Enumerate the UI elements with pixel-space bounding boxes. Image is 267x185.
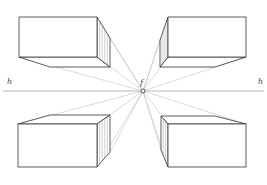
bottom-face (160, 57, 246, 67)
diagram-canvas (0, 0, 267, 185)
front-face (19, 17, 97, 57)
bottom-right-box (161, 116, 246, 167)
top-right-box (160, 17, 246, 67)
side-face (161, 116, 168, 167)
bottom-face (19, 57, 110, 67)
front-face (168, 17, 246, 57)
bottom-left-box (18, 115, 110, 167)
perspective-diagram: h h f (0, 0, 267, 185)
top-face (18, 115, 110, 124)
horizon-label-right: h (258, 78, 263, 86)
front-face (18, 124, 97, 167)
top-left-box (19, 17, 110, 67)
vanishing-point-label: f (140, 79, 143, 87)
horizon-label-left: h (7, 78, 12, 86)
side-face (97, 115, 110, 167)
vanishing-point-marker (141, 89, 145, 93)
front-face (168, 124, 246, 167)
